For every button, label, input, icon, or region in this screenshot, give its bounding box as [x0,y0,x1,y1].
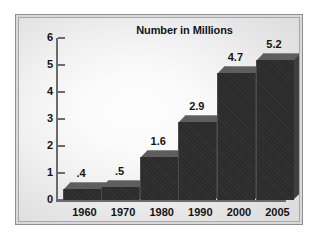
bar-front-face [63,189,101,200]
bar-1980 [140,157,177,200]
bar-1970 [101,187,138,201]
bar-1960 [63,189,100,200]
bar-value-label: 4.7 [213,52,257,63]
bar-front-face [256,60,294,200]
bar-1990 [178,122,215,200]
bar-value-label: 5.2 [252,39,296,50]
bar-value-label: .4 [59,168,103,179]
bar-front-face [140,157,178,200]
bar-value-label: 2.9 [175,101,219,112]
bar-value-label: .5 [98,166,142,177]
bar-front-face [101,187,139,201]
plot-area: Number in Millions 0123456 1960197019801… [18,17,300,222]
bar-front-face [217,73,255,200]
bar-2005 [256,60,293,200]
bars-layer: .4.51.62.94.75.2 [19,18,299,221]
bar-2000 [217,73,254,200]
bar-value-label: 1.6 [136,136,180,147]
bar-chart-figure: Number in Millions 0123456 1960197019801… [15,14,303,225]
bar-front-face [178,122,216,200]
bar-side-face [293,53,300,200]
